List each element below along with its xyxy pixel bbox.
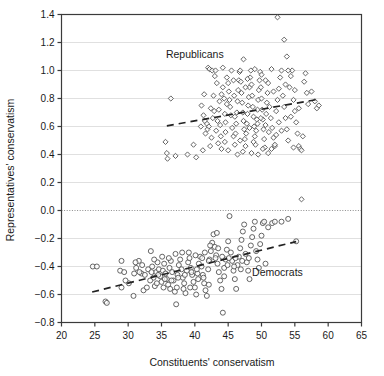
x-tick-label: 55 [289, 330, 301, 341]
data-point [152, 257, 157, 262]
data-point [240, 258, 245, 263]
data-point [259, 233, 264, 238]
data-point [186, 250, 191, 255]
data-point [279, 219, 284, 224]
data-point [258, 242, 263, 247]
data-point [137, 270, 142, 275]
data-point [148, 249, 153, 254]
chart-canvas: −0.8−0.6−0.4−0.20.00.20.40.60.81.01.21.4… [0, 0, 384, 376]
data-point [174, 285, 179, 290]
data-point [168, 286, 173, 291]
data-point [174, 302, 179, 307]
data-point [176, 275, 181, 280]
data-point [228, 250, 233, 255]
data-point [178, 257, 183, 262]
y-tick-label: 0.4 [41, 149, 55, 160]
data-point [225, 263, 230, 268]
data-point [132, 271, 137, 276]
data-point [144, 285, 149, 290]
data-point [204, 293, 209, 298]
data-point [213, 256, 218, 261]
data-point [216, 270, 221, 275]
data-point [252, 219, 257, 224]
data-point [142, 272, 147, 277]
y-axis-title: Representatives' conservatism [4, 98, 16, 241]
data-point [123, 278, 128, 283]
data-point [154, 281, 159, 286]
x-tick-label: 60 [323, 330, 335, 341]
data-point [189, 270, 194, 275]
data-point [191, 279, 196, 284]
data-point [148, 278, 153, 283]
data-point [161, 285, 166, 290]
x-tick-label: 35 [156, 330, 168, 341]
data-point [133, 260, 138, 265]
data-point [220, 254, 225, 259]
x-tick-label: 45 [223, 330, 235, 341]
y-tick-label: −0.2 [35, 233, 55, 244]
data-point [166, 256, 171, 261]
data-point [234, 286, 239, 291]
data-point [181, 286, 186, 291]
data-point [232, 264, 237, 269]
data-point [238, 267, 243, 272]
data-point [250, 235, 255, 240]
data-point [240, 229, 245, 234]
data-point [149, 270, 154, 275]
data-point [218, 278, 223, 283]
data-point [222, 274, 227, 279]
data-point [246, 268, 251, 273]
data-point [173, 251, 178, 256]
data-point [202, 250, 207, 255]
data-point [208, 243, 213, 248]
data-point [201, 275, 206, 280]
data-point [196, 277, 201, 282]
data-point [119, 258, 124, 263]
y-tick-label: 1.2 [41, 37, 55, 48]
data-point [162, 261, 167, 266]
annotation-republicans: Republicans [166, 48, 224, 60]
y-tick-label: 0.8 [41, 93, 55, 104]
data-point [246, 256, 251, 261]
data-point [180, 250, 185, 255]
data-point [239, 237, 244, 242]
data-point [140, 263, 145, 268]
x-tick-label: 25 [89, 330, 101, 341]
y-tick-label: 1.4 [41, 9, 55, 20]
y-tick-label: 0.2 [41, 177, 55, 188]
data-point [208, 249, 213, 254]
y-tick-label: 1.0 [41, 65, 55, 76]
y-tick-label: 0.0 [41, 205, 55, 216]
data-point [122, 270, 127, 275]
data-point [248, 243, 253, 248]
data-point [104, 300, 109, 305]
x-tick-label: 30 [123, 330, 135, 341]
x-tick-label: 50 [256, 330, 268, 341]
data-point [266, 225, 271, 230]
data-point [150, 264, 155, 269]
data-point [219, 286, 224, 291]
scatter-plot-figure: −0.8−0.6−0.4−0.20.00.20.40.60.81.01.21.4… [0, 0, 384, 376]
x-axis-title: Constituents' conservatism [149, 356, 274, 368]
x-tick-label: 20 [56, 330, 68, 341]
data-point [94, 264, 99, 269]
data-point [200, 256, 205, 261]
data-point [160, 254, 165, 259]
data-point [182, 281, 187, 286]
x-tick-label: 40 [189, 330, 201, 341]
y-tick-label: −0.6 [35, 289, 55, 300]
data-point [194, 267, 199, 272]
data-point [206, 267, 211, 272]
data-point [182, 272, 187, 277]
annotation-democrats: Democrats [252, 266, 303, 278]
data-point [203, 288, 208, 293]
y-tick-label: −0.4 [35, 261, 55, 272]
data-point [214, 230, 219, 235]
data-point [188, 285, 193, 290]
data-point [262, 219, 267, 224]
y-tick-label: −0.8 [35, 317, 55, 328]
data-point [215, 261, 220, 266]
data-point [286, 216, 291, 221]
data-point [162, 277, 167, 282]
data-point [193, 253, 198, 258]
